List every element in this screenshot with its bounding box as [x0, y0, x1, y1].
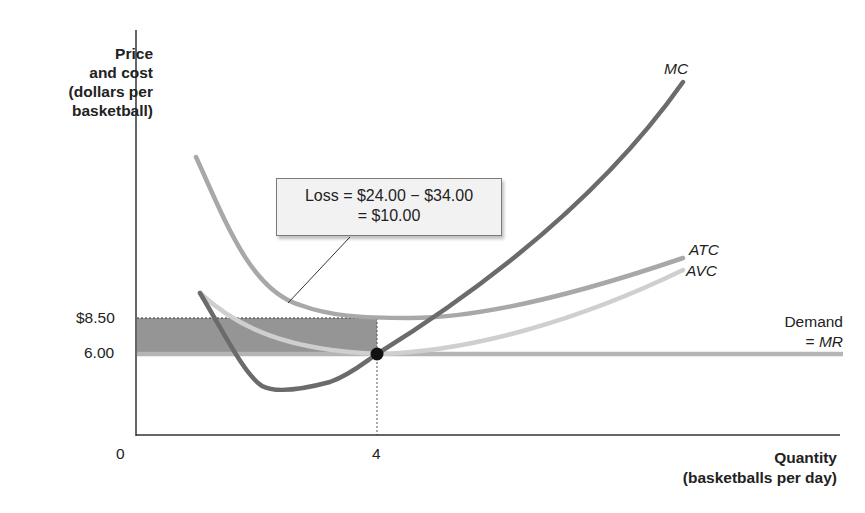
- atc-label: ATC: [689, 241, 719, 259]
- x-tick-4: 4: [372, 445, 381, 463]
- y-axis-label-line: (dollars per: [40, 82, 153, 101]
- loss-callout-box: Loss = $24.00 − $34.00 = $10.00: [276, 178, 502, 236]
- x-axis-label: Quantity (basketballs per day): [683, 448, 837, 488]
- origin-tick: 0: [116, 445, 125, 463]
- y-axis-label: Price and cost (dollars per basketball): [40, 44, 153, 120]
- avc-label: AVC: [686, 262, 717, 280]
- demand-label-line: = MR: [784, 332, 843, 352]
- x-axis-label-line: Quantity: [683, 448, 837, 468]
- y-tick-6-00: 6.00: [84, 344, 114, 362]
- mc-label: MC: [664, 60, 688, 78]
- loss-callout-connector: [288, 237, 350, 303]
- loss-callout-line1: Loss = $24.00 − $34.00: [277, 186, 501, 206]
- demand-label-line: Demand: [784, 312, 843, 332]
- demand-mr-label: Demand = MR: [784, 312, 843, 352]
- y-axis-label-line: basketball): [40, 101, 153, 120]
- y-tick-8-50: $8.50: [76, 309, 115, 327]
- equilibrium-point: [371, 348, 384, 361]
- equals-sign: =: [806, 333, 819, 350]
- mr-label: MR: [819, 333, 843, 350]
- x-axis-label-line: (basketballs per day): [683, 468, 837, 488]
- loss-area: [137, 318, 377, 354]
- y-axis-label-line: and cost: [40, 63, 153, 82]
- y-axis-label-line: Price: [40, 44, 153, 63]
- loss-callout-line2: = $10.00: [277, 206, 501, 226]
